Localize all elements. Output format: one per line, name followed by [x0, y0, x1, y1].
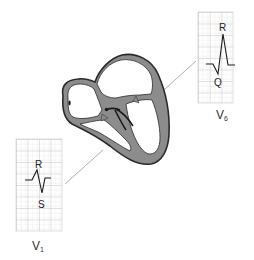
v1-ecg-strip: R S	[16, 139, 62, 231]
v1-lead-name: V	[32, 239, 40, 253]
v6-lead-subscript: 6	[224, 115, 228, 122]
v6-q-wave-label: Q	[214, 77, 222, 88]
v6-grid	[198, 12, 233, 103]
v6-lead-name: V	[216, 108, 224, 122]
v1-lead-label: V1	[32, 240, 44, 253]
v1-leader-line	[65, 150, 103, 184]
v1-r-wave-label: R	[35, 159, 42, 170]
v1-grid	[16, 139, 62, 231]
v6-ecg-strip: R Q	[198, 12, 235, 103]
v6-r-wave-label: R	[219, 22, 226, 33]
sa-node	[68, 101, 70, 106]
heart-illustration	[63, 54, 170, 164]
v1-s-wave-label: S	[38, 199, 45, 210]
v6-lead-label: V6	[216, 109, 228, 122]
heart-ecg-diagram: R Q R S	[0, 0, 254, 260]
v1-lead-subscript: 1	[40, 246, 44, 253]
